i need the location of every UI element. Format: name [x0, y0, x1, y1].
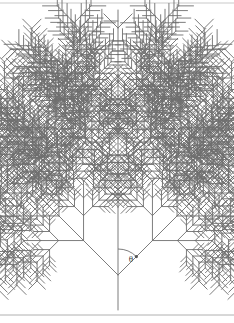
theta-angle-label: θ [129, 254, 133, 264]
angle-vertex-dot [135, 255, 138, 258]
fractal-tree-canvas: θ [0, 0, 234, 323]
figure-root: θ [0, 0, 234, 323]
